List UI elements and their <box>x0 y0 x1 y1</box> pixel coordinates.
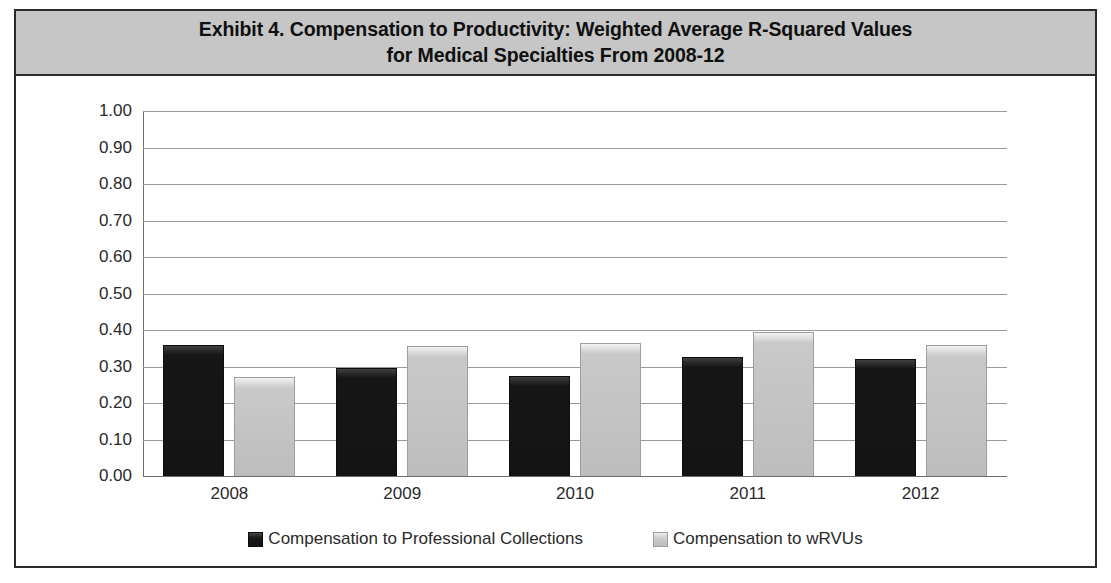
y-axis-tick-label: 0.50 <box>62 284 132 304</box>
legend-swatch-icon <box>248 532 263 547</box>
x-axis-tick-label-2009: 2009 <box>383 484 421 504</box>
y-axis-tick-label: 0.10 <box>62 430 132 450</box>
bar-2009-series-2[interactable] <box>407 346 468 476</box>
y-axis-tick-label: 0.20 <box>62 393 132 413</box>
bar-2010-series-2[interactable] <box>580 343 641 476</box>
plot-area <box>143 111 1007 476</box>
y-axis-tick-label: 0.00 <box>62 466 132 486</box>
y-axis-tick-label: 0.70 <box>62 211 132 231</box>
bar-group-2010 <box>509 111 641 476</box>
bar-2009-series-1[interactable] <box>336 368 397 476</box>
bar-2012-series-2[interactable] <box>926 345 987 476</box>
legend-entry-2[interactable]: Compensation to wRVUs <box>653 529 863 549</box>
x-axis-tick-label-2011: 2011 <box>730 484 767 504</box>
legend-label: Compensation to wRVUs <box>673 529 863 549</box>
bar-group-2009 <box>336 111 468 476</box>
y-axis-tick-label: 1.00 <box>62 101 132 121</box>
y-axis-tick-label: 0.80 <box>62 174 132 194</box>
bar-2012-series-1[interactable] <box>855 359 916 476</box>
x-axis-tick-label-2010: 2010 <box>556 484 594 504</box>
x-axis-tick-label-2012: 2012 <box>902 484 940 504</box>
bar-2008-series-2[interactable] <box>234 377 295 476</box>
exhibit-title-band: Exhibit 4. Compensation to Productivity:… <box>16 11 1095 76</box>
bar-group-2011 <box>682 111 814 476</box>
bar-2010-series-1[interactable] <box>509 376 570 476</box>
legend-entry-1[interactable]: Compensation to Professional Collections <box>248 529 583 549</box>
y-axis-tick-label: 0.40 <box>62 320 132 340</box>
exhibit-frame: Exhibit 4. Compensation to Productivity:… <box>14 9 1097 568</box>
bar-2011-series-2[interactable] <box>753 332 814 476</box>
exhibit-title: Exhibit 4. Compensation to Productivity:… <box>159 17 953 68</box>
chart-canvas: 1.000.900.800.700.600.500.400.300.200.10… <box>16 76 1095 566</box>
gridline <box>143 476 1007 477</box>
bar-group-2012 <box>855 111 987 476</box>
bar-group-2008 <box>163 111 295 476</box>
bar-2011-series-1[interactable] <box>682 357 743 476</box>
y-axis-tick-label: 0.90 <box>62 138 132 158</box>
x-axis-tick-labels: 20082009201020112012 <box>143 484 1007 510</box>
chart-legend: Compensation to Professional Collections… <box>16 529 1095 549</box>
y-axis-tick-label: 0.60 <box>62 247 132 267</box>
y-axis-tick-label: 0.30 <box>62 357 132 377</box>
y-axis-tick-labels: 1.000.900.800.700.600.500.400.300.200.10… <box>58 111 132 476</box>
legend-swatch-icon <box>653 532 668 547</box>
bar-2008-series-1[interactable] <box>163 345 224 476</box>
legend-label: Compensation to Professional Collections <box>268 529 583 549</box>
x-axis-tick-label-2008: 2008 <box>210 484 248 504</box>
